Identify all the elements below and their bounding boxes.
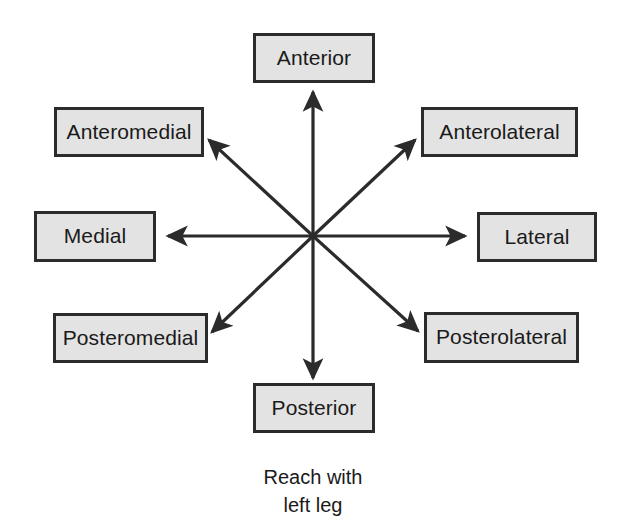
direction-box-lateral: Lateral — [477, 212, 597, 262]
direction-label-anterior: Anterior — [277, 47, 351, 70]
reach-direction-diagram: Anterior Anteromedial Anterolateral Medi… — [0, 0, 626, 530]
direction-box-posteromedial: Posteromedial — [53, 313, 208, 363]
direction-label-posterior: Posterior — [272, 397, 357, 420]
direction-box-anteromedial: Anteromedial — [54, 107, 204, 157]
arrow-anterolateral — [313, 140, 415, 236]
caption-line-2: left leg — [0, 491, 626, 519]
direction-box-anterolateral: Anterolateral — [421, 107, 578, 157]
direction-box-medial: Medial — [34, 211, 156, 262]
direction-box-posterior: Posterior — [253, 383, 375, 433]
direction-label-posteromedial: Posteromedial — [63, 327, 199, 350]
direction-label-posterolateral: Posterolateral — [436, 326, 567, 349]
direction-label-medial: Medial — [64, 225, 126, 248]
arrow-posteromedial — [212, 236, 313, 332]
caption-line-1: Reach with — [0, 463, 626, 491]
diagram-caption: Reach with left leg — [0, 463, 626, 519]
arrow-anteromedial — [209, 140, 313, 236]
direction-box-anterior: Anterior — [253, 33, 375, 83]
arrow-posterolateral — [313, 236, 418, 331]
direction-label-anterolateral: Anterolateral — [439, 121, 559, 144]
direction-box-posterolateral: Posterolateral — [424, 312, 579, 363]
direction-label-lateral: Lateral — [505, 226, 570, 249]
direction-label-anteromedial: Anteromedial — [67, 121, 192, 144]
